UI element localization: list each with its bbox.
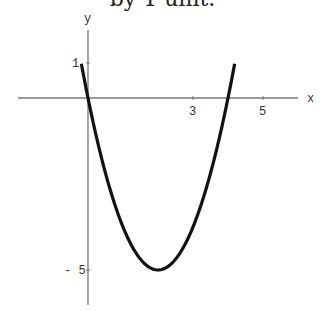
y-tick-label-1: 1: [72, 57, 79, 71]
x-tick-label-3: 3: [189, 105, 196, 119]
parabola-curve: [81, 64, 234, 270]
x-axis-label: x: [307, 92, 314, 106]
y-axis-label: y: [84, 12, 91, 26]
y-tick-label-minus5: - 5: [64, 264, 86, 278]
plot: y x 3 5 1 - 5: [0, 0, 325, 311]
x-tick-label-5: 5: [259, 105, 266, 119]
